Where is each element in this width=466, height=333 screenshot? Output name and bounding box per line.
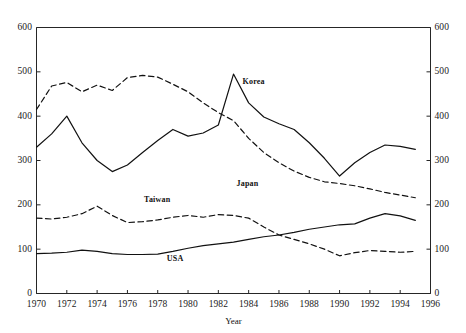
series-label-usa: USA: [167, 254, 184, 263]
y-tick-left-300: 300: [0, 155, 32, 165]
y-tick-left-500: 500: [0, 66, 32, 76]
y-tick-right-600: 600: [435, 22, 450, 32]
x-tick-1996: 1996: [411, 299, 451, 309]
series-label-taiwan: Taiwan: [144, 195, 170, 204]
y-tick-left-600: 600: [0, 22, 32, 32]
data-series: [37, 74, 416, 256]
y-tick-right-0: 0: [435, 288, 440, 298]
y-tick-right-100: 100: [435, 244, 450, 254]
y-tick-right-400: 400: [435, 111, 450, 121]
series-label-korea: Korea: [243, 77, 265, 86]
line-chart: 0100200300400500600 0100200300400500600 …: [0, 0, 466, 333]
x-axis-title: Year: [194, 316, 274, 326]
series-label-japan: Japan: [237, 179, 259, 188]
series-line-korea: [37, 74, 416, 176]
series-line-taiwan: [37, 206, 416, 256]
plot-area: [0, 0, 466, 333]
series-line-japan: [37, 75, 416, 197]
y-tick-right-300: 300: [435, 155, 450, 165]
y-tick-left-100: 100: [0, 244, 32, 254]
series-line-usa: [37, 214, 416, 255]
y-tick-left-0: 0: [0, 288, 32, 298]
y-tick-left-400: 400: [0, 111, 32, 121]
plot-frame: [37, 28, 431, 294]
y-tick-right-200: 200: [435, 199, 450, 209]
y-tick-left-200: 200: [0, 199, 32, 209]
axis-ticks: [37, 28, 431, 294]
y-tick-right-500: 500: [435, 66, 450, 76]
